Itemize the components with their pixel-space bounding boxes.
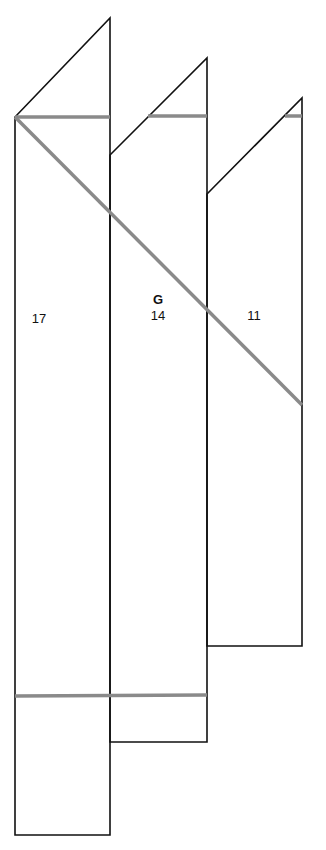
- labels: 17 G 14 11: [32, 292, 261, 326]
- panel-left: [15, 18, 110, 835]
- panel-right: [207, 98, 302, 646]
- panel-label-middle: 14: [151, 308, 165, 323]
- fold-line-bottom: [15, 695, 207, 696]
- panel-label-right: 11: [247, 308, 261, 323]
- fold-lines: [15, 116, 302, 696]
- folded-panels-diagram: 17 G 14 11: [0, 0, 326, 850]
- panel-middle: [110, 58, 207, 742]
- panel-outlines: [15, 18, 302, 835]
- fold-line-diagonal: [15, 117, 302, 405]
- panel-label-left: 17: [32, 311, 46, 326]
- title-letter: G: [153, 292, 163, 307]
